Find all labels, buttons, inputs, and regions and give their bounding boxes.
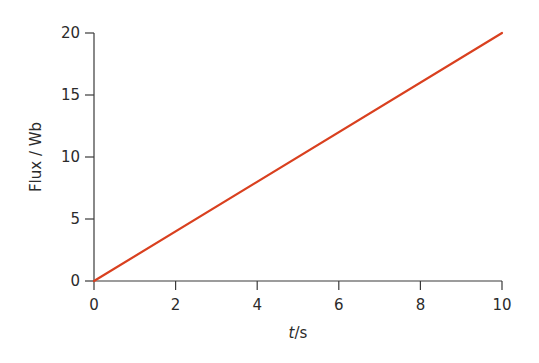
- flux-vs-time-chart: 0246810 05101520 Flux / Wb t/s: [0, 0, 539, 363]
- x-tick-label: 0: [89, 296, 99, 314]
- y-axis-label: Flux / Wb: [27, 122, 45, 192]
- x-tick-label: 10: [492, 296, 511, 314]
- flux-line: [94, 33, 502, 281]
- x-tick-label: 8: [416, 296, 426, 314]
- y-tick-label: 20: [61, 24, 80, 42]
- x-tick-label: 6: [334, 296, 344, 314]
- y-tick-label: 5: [70, 210, 80, 228]
- x-tick-label: 4: [252, 296, 262, 314]
- data-series: [94, 33, 502, 281]
- y-tick-label: 15: [61, 86, 80, 104]
- x-axis-label: t/s: [289, 324, 308, 342]
- y-tick-label: 0: [70, 272, 80, 290]
- x-axis-label-unit: /s: [295, 324, 308, 342]
- x-tick-label: 2: [171, 296, 181, 314]
- y-tick-label: 10: [61, 148, 80, 166]
- y-ticks: 05101520: [61, 24, 94, 290]
- x-ticks: 0246810: [89, 281, 511, 314]
